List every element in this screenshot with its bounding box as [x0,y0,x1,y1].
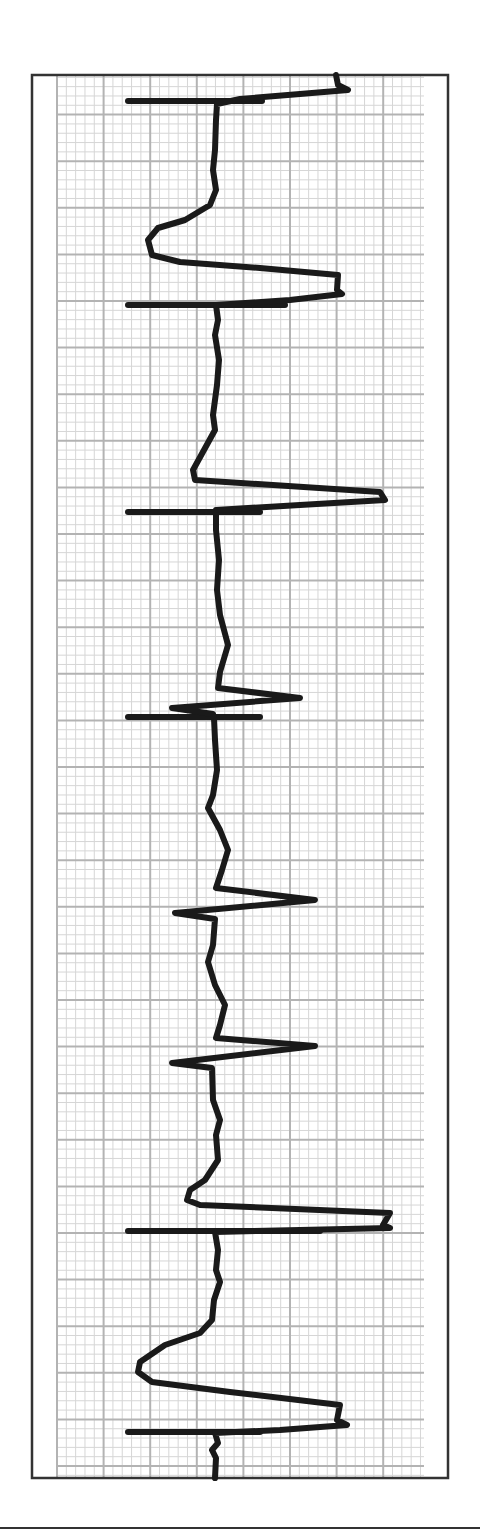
page-separator [0,1527,480,1529]
rhythm-strip-chart [0,0,480,1539]
grid-minor-lines [57,75,424,1478]
